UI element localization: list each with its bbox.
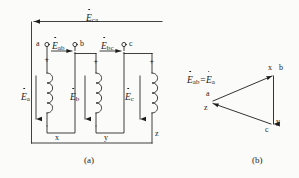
- equation-symbol-left: E: [187, 75, 193, 85]
- label-E-bc: Ebc: [101, 36, 114, 52]
- figure-drawing: [0, 0, 299, 178]
- caption-b: (b): [252, 156, 263, 165]
- terminal-label-c: c: [129, 40, 133, 48]
- label-E-ca-subscript: ca: [92, 16, 98, 24]
- terminal-label-x: x: [55, 134, 59, 142]
- phasor-dot-eq-left: [189, 71, 191, 73]
- label-E-b-symbol: E: [70, 92, 76, 102]
- phasor-dot-E-b: [72, 88, 74, 90]
- phasor-vertex-label-x: x: [268, 64, 272, 72]
- phasor-triangle: [213, 76, 274, 124]
- phasor-vertex-label-z: z: [204, 104, 208, 112]
- label-E-ab-subscript: ab: [58, 44, 65, 52]
- wire-y-to-c: [96, 53, 124, 134]
- equation-sub-left: ab: [193, 78, 200, 86]
- label-E-a-subscript: a: [27, 95, 30, 103]
- label-E-c-symbol: E: [125, 92, 131, 102]
- label-E-ca: Eca: [86, 8, 98, 24]
- label-E-ab: Eab: [52, 36, 65, 52]
- label-E-ab-symbol: E: [52, 41, 58, 51]
- polarity-plus-a: +: [45, 56, 50, 64]
- phasor-vertex-label-a: a: [206, 90, 210, 98]
- coil-a: [47, 61, 53, 126]
- phasor-dot-E-bc: [103, 37, 105, 39]
- phasor-dot-E-c: [127, 88, 129, 90]
- label-E-ca-symbol: E: [86, 13, 92, 23]
- equation-sub-right: a: [212, 78, 215, 86]
- label-E-a: Ea: [21, 87, 30, 103]
- label-E-c-subscript: c: [131, 95, 134, 103]
- terminal-label-z: z: [155, 130, 159, 138]
- label-E-bc-subscript: bc: [107, 44, 114, 52]
- label-E-b-subscript: b: [76, 95, 80, 103]
- label-phasor-equation: Eab=Ea: [187, 70, 215, 86]
- caption-a: (a): [84, 156, 94, 165]
- phasor-dot-E-ca: [88, 9, 90, 11]
- phasor-vertex-label-c: c: [265, 126, 269, 134]
- terminal-b: [73, 42, 77, 50]
- label-E-a-symbol: E: [21, 92, 27, 102]
- label-E-c: Ec: [125, 87, 134, 103]
- phasor-dot-E-ab: [54, 37, 56, 39]
- label-E-b: Eb: [70, 87, 79, 103]
- phasor-dot-E-a: [23, 88, 25, 90]
- terminal-label-b: b: [80, 40, 84, 48]
- terminal-label-a: a: [36, 40, 40, 48]
- figure-container: a b c x y z + + + Eca Eab Ebc Ea Eb E: [0, 0, 299, 178]
- terminal-c: [122, 42, 126, 50]
- terminal-label-y: y: [104, 134, 108, 142]
- polarity-plus-c: +: [150, 58, 155, 66]
- phasor-dot-eq-right: [208, 71, 210, 73]
- label-E-bc-symbol: E: [101, 41, 107, 51]
- phasor-vertex-label-y: y: [276, 118, 280, 126]
- equation-symbol-right: E: [206, 75, 212, 85]
- phasor-vertex-label-b: b: [279, 64, 283, 72]
- polarity-plus-b: +: [94, 58, 99, 66]
